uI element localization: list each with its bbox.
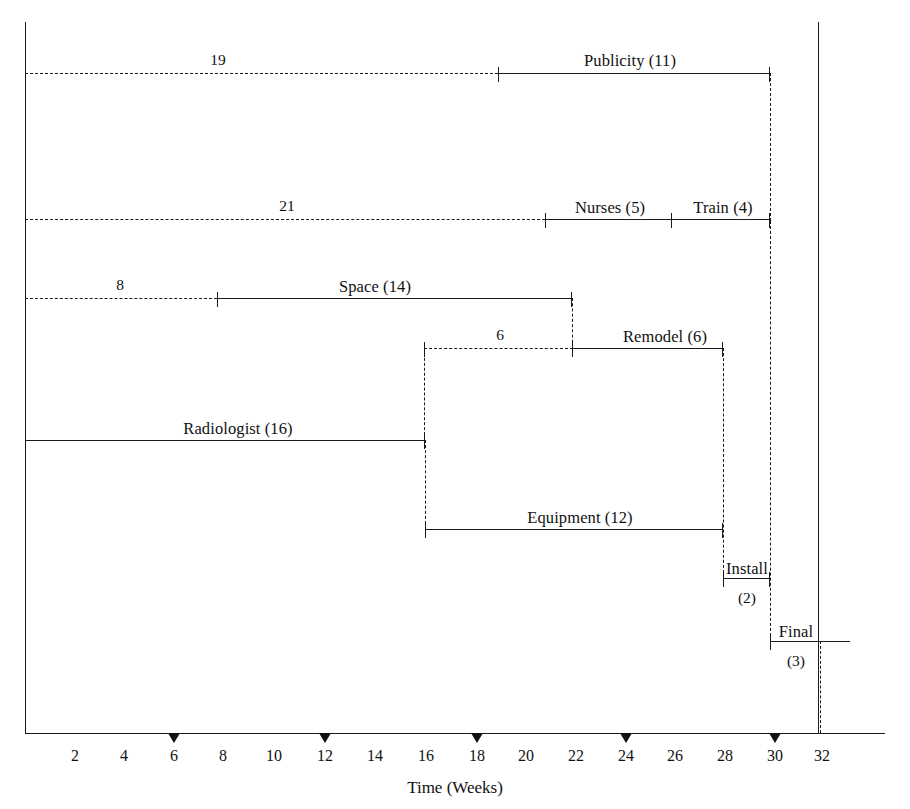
x-tick-20: 20: [518, 748, 534, 764]
final-bar: [770, 641, 850, 642]
x-tick-14: 14: [367, 748, 383, 764]
x-tick-10: 10: [266, 748, 282, 764]
nurses-end-cap: [671, 213, 672, 228]
space-bar: [217, 298, 572, 299]
train-label: Train (4): [693, 200, 752, 217]
publicity-slack-bar: [25, 73, 498, 74]
publicity-start-cap: [498, 67, 499, 82]
equipment-bar: [425, 529, 723, 530]
x-tick-6: 6: [170, 748, 178, 764]
nurses-slack-label: 21: [279, 198, 295, 214]
x-tick-26: 26: [667, 748, 683, 764]
x-axis-title: Time (Weeks): [0, 779, 910, 796]
final-to-axis-connector: [820, 641, 821, 733]
radiologist-to-remodel-connector: [424, 348, 425, 440]
x-tick-22: 22: [568, 748, 584, 764]
publicity-slack-start-cap: [25, 67, 26, 82]
space-slack-bar: [25, 298, 217, 299]
nurses-slack-start-cap: [25, 213, 26, 228]
milestone-marker-week-30: [769, 733, 781, 743]
remodel-slack-bar: [424, 348, 573, 349]
x-tick-12: 12: [317, 748, 333, 764]
x-tick-18: 18: [469, 748, 485, 764]
radiologist-label: Radiologist (16): [183, 421, 292, 438]
x-tick-30: 30: [767, 748, 783, 764]
x-tick-2: 2: [71, 748, 79, 764]
nurses-label: Nurses (5): [575, 200, 645, 217]
nurses-bar: [545, 219, 672, 220]
publicity-label: Publicity (11): [584, 53, 676, 70]
final-label: Final: [779, 624, 813, 641]
remodel-label: Remodel (6): [623, 329, 707, 346]
publicity-to-finish-connector: [770, 73, 771, 221]
equipment-start-cap: [425, 523, 426, 538]
space-to-remodel-connector: [572, 298, 573, 348]
nurses-start-cap: [545, 213, 546, 228]
gantt-chart: 19 Publicity (11) 21 Nurses (5) Train (4…: [0, 0, 910, 809]
remodel-bar: [572, 348, 723, 349]
radiologist-bar: [25, 440, 425, 441]
final-start-cap: [770, 635, 771, 650]
equipment-label: Equipment (12): [527, 510, 632, 527]
nurses-slack-bar: [25, 219, 545, 220]
milestone-marker-week-12: [319, 733, 331, 743]
x-tick-32: 32: [814, 748, 830, 764]
remodel-to-install-connector: [723, 348, 724, 578]
milestone-marker-week-6: [168, 733, 180, 743]
final-duration-label: (3): [787, 653, 805, 669]
y-axis-line: [25, 22, 26, 734]
x-tick-8: 8: [219, 748, 227, 764]
week30-finish-spine: [770, 221, 771, 641]
publicity-slack-label: 19: [210, 52, 226, 68]
x-axis-line: [25, 733, 885, 734]
x-tick-16: 16: [418, 748, 434, 764]
equipment-end-cap: [722, 523, 723, 538]
remodel-slack-label: 6: [496, 327, 504, 343]
space-label: Space (14): [339, 279, 411, 296]
x-tick-24: 24: [618, 748, 634, 764]
milestone-marker-week-18: [471, 733, 483, 743]
install-start-cap: [723, 572, 724, 587]
install-label: Install: [726, 561, 768, 578]
space-start-cap: [217, 292, 218, 307]
radiologist-to-equipment-connector: [425, 440, 426, 529]
remodel-start-cap: [572, 342, 573, 357]
install-duration-label: (2): [738, 590, 756, 606]
x-tick-28: 28: [717, 748, 733, 764]
install-bar: [723, 578, 770, 579]
space-slack-label: 8: [116, 277, 124, 293]
publicity-bar: [498, 73, 770, 74]
milestone-marker-week-24: [620, 733, 632, 743]
project-end-reference-line: [818, 22, 819, 733]
train-bar: [672, 219, 770, 220]
x-tick-4: 4: [120, 748, 128, 764]
space-slack-start-cap: [25, 292, 26, 307]
